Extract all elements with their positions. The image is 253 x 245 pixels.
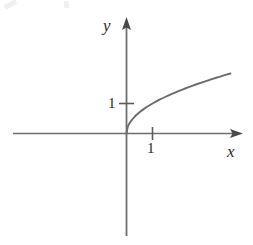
x-tick-label-1: 1 xyxy=(147,141,155,156)
y-axis-label: y xyxy=(103,17,111,34)
sqrt-curve xyxy=(127,74,231,134)
x-axis-label: x xyxy=(227,143,235,160)
y-tick-label-1: 1 xyxy=(108,96,116,111)
function-graph-figure: y x 1 1 xyxy=(0,0,253,245)
plot-canvas xyxy=(0,0,253,245)
